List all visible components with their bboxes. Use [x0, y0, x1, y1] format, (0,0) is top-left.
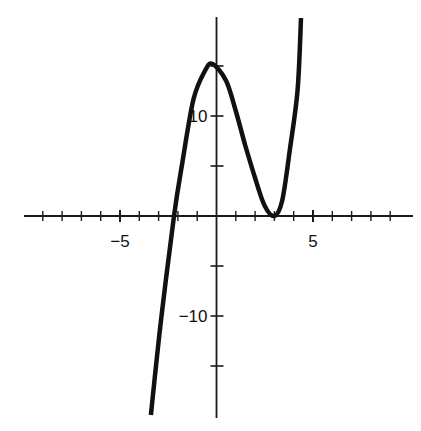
- function-graph: −5510−10: [0, 0, 421, 431]
- y-tick-label: −10: [179, 307, 208, 326]
- x-tick-label: 5: [308, 232, 317, 251]
- axes: [24, 17, 413, 418]
- x-tick-label: −5: [110, 232, 129, 251]
